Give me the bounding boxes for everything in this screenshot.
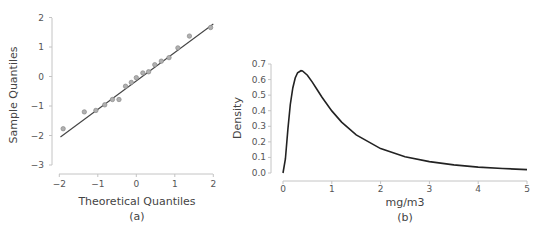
x-tick-label: 5 xyxy=(524,184,530,194)
qq-plot-panel: −3−2−1012 −2−1012 Theoretical Quantiles … xyxy=(7,13,216,224)
data-point xyxy=(159,59,163,63)
x-tick-label: 2 xyxy=(210,179,216,189)
y-tick-label: 0.4 xyxy=(252,106,267,116)
x-axis-ticks: 012345 xyxy=(280,181,530,194)
x-tick-label: 2 xyxy=(378,184,384,194)
data-point xyxy=(146,70,150,74)
y-axis-ticks: −3−2−1012 xyxy=(31,13,52,171)
y-tick-label: 1 xyxy=(38,42,44,52)
y-tick-label: 0.7 xyxy=(252,59,266,69)
data-point xyxy=(129,80,133,84)
x-tick-label: 3 xyxy=(427,184,433,194)
y-tick-label: −2 xyxy=(31,131,44,141)
x-axis-ticks: −2−1012 xyxy=(53,174,217,189)
y-tick-label: 0.0 xyxy=(252,168,267,178)
data-point xyxy=(141,71,145,75)
y-axis-title: Sample Quantiles xyxy=(7,46,20,143)
data-point xyxy=(82,110,86,114)
data-point xyxy=(123,84,127,88)
data-point xyxy=(153,62,157,66)
data-point xyxy=(187,34,191,38)
data-point xyxy=(134,75,138,79)
density-plot-panel: 0.00.10.20.30.40.50.60.7 012345 mg/m3 (b… xyxy=(231,59,530,224)
x-axis-title: Theoretical Quantiles xyxy=(77,195,195,208)
y-tick-label: 0 xyxy=(38,72,44,82)
data-point xyxy=(103,103,107,107)
y-tick-label: 0.6 xyxy=(252,75,267,85)
y-tick-label: 0.1 xyxy=(252,152,266,162)
y-tick-label: 2 xyxy=(38,13,44,23)
x-tick-label: −2 xyxy=(53,179,66,189)
y-tick-label: 0.2 xyxy=(252,137,266,147)
density-curve xyxy=(283,71,527,173)
x-tick-label: 1 xyxy=(172,179,178,189)
panel-caption-b: (b) xyxy=(397,211,413,224)
y-axis-title: Density xyxy=(231,97,244,139)
reference-line xyxy=(60,24,213,137)
y-axis-ticks: 0.00.10.20.30.40.50.60.7 xyxy=(252,59,271,178)
x-tick-label: 0 xyxy=(133,179,139,189)
data-point xyxy=(61,127,65,131)
data-point xyxy=(94,108,98,112)
x-axis-title: mg/m3 xyxy=(385,196,424,209)
figure: −3−2−1012 −2−1012 Theoretical Quantiles … xyxy=(0,0,543,234)
data-point xyxy=(208,25,212,29)
x-tick-label: −1 xyxy=(91,179,104,189)
y-tick-label: −3 xyxy=(31,160,44,170)
x-tick-label: 0 xyxy=(280,184,286,194)
data-point xyxy=(110,97,114,101)
y-tick-label: 0.5 xyxy=(252,90,266,100)
panel-caption-a: (a) xyxy=(129,210,144,223)
y-tick-label: 0.3 xyxy=(252,121,266,131)
y-tick-label: −1 xyxy=(31,101,44,111)
data-point xyxy=(176,46,180,50)
data-point xyxy=(117,97,121,101)
x-tick-label: 1 xyxy=(329,184,335,194)
x-tick-label: 4 xyxy=(475,184,481,194)
data-point xyxy=(167,55,171,59)
